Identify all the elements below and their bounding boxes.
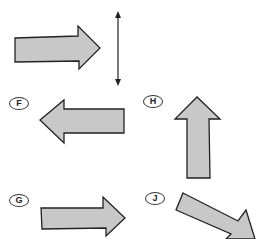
option-label-f: F [9, 97, 29, 110]
option-g-arrow-right [41, 197, 125, 236]
mirror-line-double-arrow [115, 11, 121, 86]
option-f-arrow-left [40, 100, 124, 143]
option-label-j: J [145, 192, 165, 205]
option-h-arrow-up [175, 97, 220, 178]
option-label-h: H [143, 95, 163, 108]
reference-arrow-right [15, 26, 100, 69]
diagram-canvas [0, 0, 259, 239]
option-label-g: G [9, 194, 29, 207]
option-j-arrow-down-right [176, 193, 255, 239]
